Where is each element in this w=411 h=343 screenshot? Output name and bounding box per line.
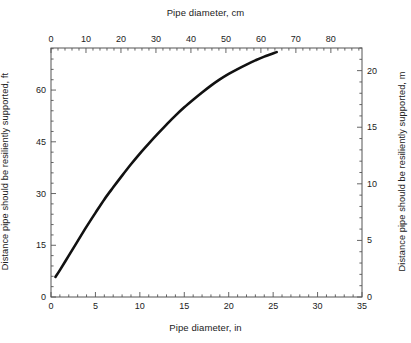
y-right-axis-tick-label: 0 (367, 292, 372, 302)
x-top-axis-tick-label: 80 (326, 34, 336, 44)
x-axis-tick-label: 20 (224, 301, 234, 311)
x-axis-tick-label: 35 (357, 301, 367, 311)
x-axis-tick-label: 0 (48, 301, 53, 311)
chart-figure: Pipe diameter, cm Pipe diameter, in Dist… (0, 0, 411, 343)
x-top-axis-tick-label: 0 (48, 34, 53, 44)
plot-area (0, 0, 411, 343)
y-axis-tick-label: 45 (36, 137, 46, 147)
bottom-axis-title: Pipe diameter, in (0, 322, 411, 333)
x-top-axis-tick-label: 40 (186, 34, 196, 44)
data-series-line (55, 52, 276, 277)
right-axis-title: Distance pipe should be resiliently supp… (397, 0, 411, 343)
left-axis-title: Distance pipe should be resiliently supp… (0, 0, 14, 343)
y-axis-tick-label: 60 (36, 85, 46, 95)
x-top-axis-tick-label: 10 (81, 34, 91, 44)
x-axis-tick-label: 25 (268, 301, 278, 311)
x-axis-tick-label: 30 (313, 301, 323, 311)
y-axis-tick-label: 15 (36, 240, 46, 250)
y-right-axis-tick-label: 20 (367, 66, 377, 76)
axes-layer (51, 48, 362, 297)
x-top-axis-tick-label: 20 (116, 34, 126, 44)
y-right-axis-tick-label: 15 (367, 122, 377, 132)
x-top-axis-tick-label: 30 (151, 34, 161, 44)
y-right-axis-tick-label: 5 (367, 235, 372, 245)
y-axis-tick-label: 30 (36, 189, 46, 199)
ticks-layer (51, 48, 362, 297)
x-top-axis-tick-label: 70 (291, 34, 301, 44)
x-axis-tick-label: 15 (179, 301, 189, 311)
top-axis-title: Pipe diameter, cm (0, 7, 411, 18)
y-right-axis-tick-label: 10 (367, 179, 377, 189)
plot-frame (51, 48, 362, 297)
x-top-axis-tick-label: 50 (221, 34, 231, 44)
y-axis-tick-label: 0 (41, 292, 46, 302)
x-top-axis-tick-label: 60 (256, 34, 266, 44)
x-axis-tick-label: 10 (135, 301, 145, 311)
x-axis-tick-label: 5 (93, 301, 98, 311)
